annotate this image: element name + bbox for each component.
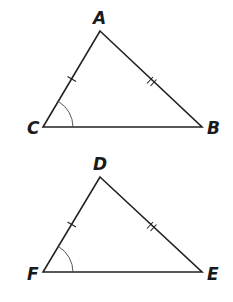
vertex-label-b: B [207, 118, 220, 138]
triangle-def-outline [43, 177, 202, 272]
vertex-label-a: A [91, 8, 106, 28]
double-tick-mark-de [147, 222, 157, 231]
angle-arc-f [59, 247, 74, 273]
vertex-label-f: F [27, 264, 39, 284]
congruent-triangles-diagram: A B C D E F [0, 0, 233, 302]
double-tick-mark-ab [147, 77, 157, 86]
triangle-def: D E F [27, 154, 219, 284]
angle-arc-c [59, 102, 74, 128]
vertex-label-e: E [207, 264, 219, 284]
triangle-abc-outline [43, 31, 202, 127]
vertex-label-c: C [27, 118, 40, 138]
triangle-abc: A B C [27, 8, 220, 138]
vertex-label-d: D [93, 154, 107, 174]
